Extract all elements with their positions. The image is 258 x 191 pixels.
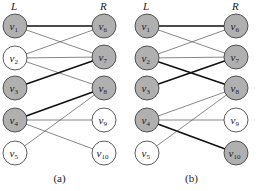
panel-caption: (a) (53, 172, 66, 185)
matched-edge-v4-v10 (147, 120, 236, 153)
node-v4: v4 (3, 108, 27, 132)
node-v3: v3 (135, 76, 159, 100)
edge-v4-v10 (15, 120, 104, 153)
node-v10: v10 (92, 141, 116, 165)
right-set-label: R (231, 0, 239, 12)
node-v5: v5 (135, 141, 159, 165)
node-v9: v9 (224, 108, 248, 132)
right-set-label: R (99, 0, 107, 12)
edge-v5-v8 (147, 88, 236, 153)
left-set-label: L (142, 0, 149, 12)
node-v8: v8 (92, 76, 116, 100)
matched-edge-v4-v8 (15, 88, 104, 120)
edge-v2-v7 (147, 57, 236, 58)
node-v1: v1 (3, 14, 27, 38)
panel-caption: (b) (185, 172, 198, 185)
node-v4: v4 (135, 108, 159, 132)
node-v6: v6 (224, 14, 248, 38)
node-v7: v7 (92, 45, 116, 69)
node-v10: v10 (224, 141, 248, 165)
node-v9: v9 (92, 108, 116, 132)
panel-b: v1v2v3v4v5v6v7v8v9v10LR(b) (135, 0, 248, 185)
edge-v4-v8 (147, 88, 236, 120)
left-set-label: L (10, 0, 17, 12)
node-v2: v2 (3, 46, 27, 70)
node-v7: v7 (224, 45, 248, 69)
node-v2: v2 (135, 46, 159, 70)
edge-v2-v7 (15, 57, 104, 58)
node-v5: v5 (3, 141, 27, 165)
node-v3: v3 (3, 76, 27, 100)
bipartite-matching-figure: v1v2v3v4v5v6v7v8v9v10LR(a) v1v2v3v4v5v6v… (0, 0, 258, 191)
edge-v5-v8 (15, 88, 104, 153)
node-v1: v1 (135, 14, 159, 38)
panel-a: v1v2v3v4v5v6v7v8v9v10LR(a) (3, 0, 116, 185)
node-v6: v6 (92, 14, 116, 38)
node-v8: v8 (224, 76, 248, 100)
